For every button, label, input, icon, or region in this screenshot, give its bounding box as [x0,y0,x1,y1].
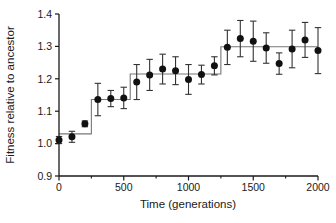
x-tick-label: 1000 [177,181,201,193]
y-axis-title: Fitness relative to ancestor [4,26,16,164]
y-tick-label: 1.3 [37,40,52,52]
x-tick-label: 1500 [242,181,266,193]
data-point-marker [276,60,283,67]
x-axis-title: Time (generations) [140,198,236,210]
fitness-trajectory-chart: 0.91.01.11.21.31.4 0500100015002000 Time… [0,0,336,223]
data-point-marker [94,96,101,103]
data-point-marker [263,45,270,52]
data-point-marker [211,62,218,69]
x-tick-label: 500 [115,181,133,193]
chart-canvas: 0.91.01.11.21.31.4 0500100015002000 Time… [0,0,336,223]
x-tick-label: 2000 [306,181,330,193]
x-tick-label: 0 [56,181,62,193]
data-point-marker [185,76,192,83]
data-point-marker [302,36,309,43]
data-point-marker [81,120,88,127]
y-tick-label: 0.9 [37,170,52,182]
data-point-marker [224,44,231,51]
data-point-marker [68,133,75,140]
y-tick-label: 1.0 [37,137,52,149]
data-point-marker [237,35,244,42]
data-point-marker [146,71,153,78]
data-point-marker [289,45,296,52]
y-tick-label: 1.2 [37,73,52,85]
data-point-marker [315,47,322,54]
data-point-marker [107,95,114,102]
data-point-marker [133,79,140,86]
data-point-marker [159,66,166,73]
data-point-marker [250,38,257,45]
y-tick-label: 1.1 [37,105,52,117]
data-point-marker [172,67,179,74]
y-tick-label: 1.4 [37,8,52,20]
data-point-marker [120,94,127,101]
data-point-marker [198,71,205,78]
